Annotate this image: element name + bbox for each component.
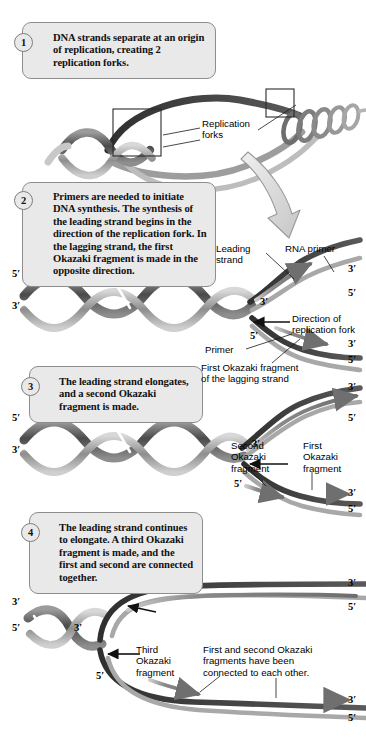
tick-helix2-left-5: 5′ xyxy=(12,268,20,279)
tick-lag2-5-right: 5′ xyxy=(348,354,356,365)
tick-fork3-3-inner: 3′ xyxy=(252,438,260,449)
label-first-okazaki: First Okazaki fragment xyxy=(303,440,341,474)
label-primer: Primer xyxy=(205,344,234,355)
dna-replication-figure: 1 DNA strands separate at an origin of r… xyxy=(0,0,366,745)
tick-fork2-3-inner: 3′ xyxy=(260,296,268,307)
tick-lag4-5-inner: 5′ xyxy=(96,670,104,681)
tick-fork4-3-inner: 3′ xyxy=(74,622,82,633)
step-2-number: 2 xyxy=(14,191,33,210)
panel4-helix xyxy=(28,610,104,647)
label-second-okazaki: Second Okazaki fragment xyxy=(231,440,269,474)
step-4-text: The leading strand continues to elongate… xyxy=(59,522,194,584)
tick-lag2-5-inner: 5′ xyxy=(250,330,258,341)
tick-lead4-3-right: 3′ xyxy=(348,577,356,588)
label-replication-forks: Replication forks xyxy=(202,118,250,141)
tick-lag2-3-right: 3′ xyxy=(348,338,356,349)
tick-frag4-3-right: 3′ xyxy=(348,694,356,705)
tick-frag3-5-right: 5′ xyxy=(348,503,356,514)
tick-lag4-5-right: 5′ xyxy=(348,601,356,612)
step-1-text: DNA strands separate at an origin of rep… xyxy=(53,32,207,69)
tick-helix3-left-3: 3′ xyxy=(12,444,20,455)
label-leading-strand: Leading strand xyxy=(216,243,250,266)
tick-lag3-5-inner: 5′ xyxy=(234,478,242,489)
step-2-text: Primers are needed to initiate DNA synth… xyxy=(53,191,207,278)
tick-helix3-left-5: 5′ xyxy=(12,412,20,423)
tick-helix4-left-5: 5′ xyxy=(12,622,20,633)
tick-helix4-left-3: 3′ xyxy=(12,596,20,607)
label-direction-of-fork: Direction of replication fork xyxy=(292,313,355,336)
transition-arrow-icon xyxy=(241,152,300,238)
step-1-callout: 1 DNA strands separate at an origin of r… xyxy=(22,22,216,79)
panel3-helix xyxy=(24,422,244,472)
panel4-replication xyxy=(28,584,366,718)
tick-frag4-5-right: 5′ xyxy=(348,712,356,723)
step-4-number: 4 xyxy=(21,523,40,542)
tick-frag3-3-right: 3′ xyxy=(348,487,356,498)
step-1-number: 1 xyxy=(14,33,33,52)
tick-helix2-left-3: 3′ xyxy=(12,300,20,311)
label-third-okazaki: Third Okazaki fragment xyxy=(136,644,174,678)
step-3-text: The leading strand elongates, and a seco… xyxy=(59,376,194,413)
label-connected-fragments: First and second Okazaki fragments have … xyxy=(203,644,312,678)
tick-lead3-3-right: 3′ xyxy=(348,381,356,392)
step-4-callout: 4 The leading strand continues to elonga… xyxy=(29,512,203,594)
tick-lag3-5-right: 5′ xyxy=(348,412,356,423)
step-2-callout: 2 Primers are needed to initiate DNA syn… xyxy=(22,182,216,287)
label-rna-primer: RNA primer xyxy=(285,243,335,254)
tick-leading-3-right: 3′ xyxy=(348,263,356,274)
tick-primer-5-right: 5′ xyxy=(348,287,356,298)
step-3-number: 3 xyxy=(21,377,40,396)
label-first-okazaki-lagging: First Okazaki fragment of the lagging st… xyxy=(201,362,298,385)
step-3-callout: 3 The leading strand elongates, and a se… xyxy=(29,366,203,423)
